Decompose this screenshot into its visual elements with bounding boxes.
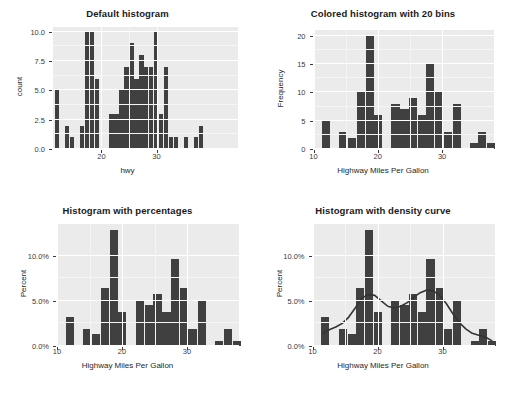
x-tick-mark xyxy=(313,347,314,350)
gridline-horizontal xyxy=(314,148,494,149)
y-tick-mark xyxy=(49,120,52,121)
plot-area xyxy=(53,27,238,149)
x-tick-mark xyxy=(57,347,58,350)
gridline-horizontal xyxy=(314,120,494,121)
gridline-horizontal xyxy=(57,255,239,256)
gridline-horizontal xyxy=(313,345,495,346)
gridline-vertical-minor xyxy=(90,224,91,346)
gridline-vertical-minor xyxy=(410,224,411,346)
y-tick-mark xyxy=(310,36,313,37)
x-tick-mark xyxy=(443,347,444,350)
gridline-horizontal xyxy=(57,300,239,301)
y-tick-label: 0.0 xyxy=(0,145,45,154)
y-tick-mark xyxy=(53,256,56,257)
y-axis-title: Percent xyxy=(19,254,28,314)
x-tick-mark xyxy=(378,150,379,153)
gridline-horizontal-minor xyxy=(57,277,239,278)
histogram-bar xyxy=(149,67,153,149)
gridline-vertical xyxy=(157,27,158,149)
histogram-bar xyxy=(162,312,170,346)
panel-title: Histogram with density curve xyxy=(256,205,511,216)
panel-title: Histogram with percentages xyxy=(0,205,255,216)
y-tick-mark xyxy=(49,61,52,62)
x-tick-label: 20 xyxy=(97,152,105,161)
histogram-bar xyxy=(80,126,84,149)
panel-histogram-percentages: Histogram with percentages 0.0%5.0%10.0%… xyxy=(0,197,255,394)
gridline-vertical xyxy=(443,224,444,346)
gridline-vertical-minor xyxy=(410,30,411,149)
x-tick-label: 30 xyxy=(152,152,160,161)
gridline-horizontal xyxy=(313,300,495,301)
x-tick-mark xyxy=(378,347,379,350)
gridline-horizontal-minor xyxy=(314,77,494,78)
gridline-horizontal xyxy=(53,31,238,32)
gridline-vertical-minor xyxy=(346,30,347,149)
histogram-bar xyxy=(224,329,232,346)
y-tick-label: 2.5 xyxy=(0,115,45,124)
gridline-vertical-minor xyxy=(155,224,156,346)
y-tick-mark xyxy=(49,149,52,150)
histogram-bar xyxy=(110,230,118,346)
y-tick-mark xyxy=(310,92,313,93)
gridline-vertical xyxy=(378,30,379,149)
x-tick-mark xyxy=(101,150,102,153)
gridline-vertical-minor xyxy=(129,27,130,149)
y-tick-mark xyxy=(49,32,52,33)
gridline-horizontal xyxy=(53,148,238,149)
histogram-bar xyxy=(66,317,74,346)
x-tick-mark xyxy=(442,150,443,153)
histogram-bar xyxy=(171,259,179,346)
histogram-bar xyxy=(139,55,143,149)
gridline-vertical xyxy=(122,224,123,346)
panel-default-histogram: Default histogram 0.02.55.07.510.0 2030 … xyxy=(0,0,255,197)
gridline-vertical xyxy=(442,30,443,149)
gridline-vertical xyxy=(187,224,188,346)
plot-area xyxy=(313,224,495,346)
gridline-horizontal-minor xyxy=(53,45,238,46)
histogram-bar xyxy=(65,126,69,149)
panel-colored-histogram: Colored histogram with 20 bins 05101520 … xyxy=(256,0,511,197)
plot-area xyxy=(314,30,494,149)
y-axis-title: count xyxy=(15,57,24,117)
bars-layer xyxy=(314,30,494,149)
x-axis-title: hwy xyxy=(0,166,255,175)
gridline-vertical xyxy=(101,27,102,149)
gridline-vertical-minor xyxy=(345,224,346,346)
gridline-vertical xyxy=(314,30,315,149)
gridline-horizontal-minor xyxy=(313,322,495,323)
y-tick-mark xyxy=(310,64,313,65)
x-axis-title: Highway Miles Per Gallon xyxy=(256,361,511,370)
gridline-horizontal-minor xyxy=(314,106,494,107)
y-tick-label: 10.0 xyxy=(0,27,45,36)
histogram-bar xyxy=(357,92,365,149)
x-tick-mark xyxy=(157,150,158,153)
histogram-bar xyxy=(453,104,461,149)
y-tick-label: 0.0% xyxy=(256,342,305,351)
histogram-bar xyxy=(188,329,196,346)
x-tick-mark xyxy=(122,347,123,350)
y-axis-title: Frequency xyxy=(275,58,284,118)
y-tick-label: 0 xyxy=(256,145,306,154)
figure-grid: Default histogram 0.02.55.07.510.0 2030 … xyxy=(0,0,511,394)
gridline-horizontal xyxy=(57,345,239,346)
y-tick-mark xyxy=(309,301,312,302)
histogram-bar xyxy=(391,104,399,149)
gridline-horizontal xyxy=(313,255,495,256)
gridline-vertical xyxy=(313,224,314,346)
gridline-horizontal xyxy=(53,119,238,120)
gridline-vertical xyxy=(57,224,58,346)
x-tick-label: 20 xyxy=(374,152,382,161)
x-tick-label: 30 xyxy=(438,152,446,161)
histogram-bar xyxy=(199,126,203,149)
x-tick-label: 10 xyxy=(309,152,317,161)
histogram-bar xyxy=(164,67,168,149)
bars-layer xyxy=(57,224,239,346)
gridline-horizontal xyxy=(53,89,238,90)
x-axis-title: Highway Miles Per Gallon xyxy=(256,166,511,175)
y-tick-label: 20 xyxy=(256,31,306,40)
histogram-bar xyxy=(101,288,109,346)
gridline-horizontal-minor xyxy=(313,277,495,278)
histogram-bar xyxy=(145,305,153,346)
gridline-horizontal xyxy=(53,60,238,61)
y-tick-mark xyxy=(309,256,312,257)
